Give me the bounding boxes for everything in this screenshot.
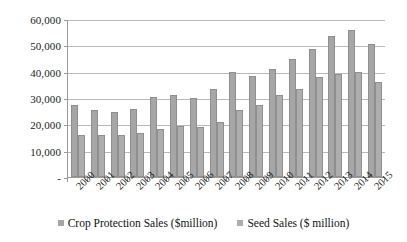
bar [296, 89, 303, 177]
bar-group [68, 20, 88, 177]
y-axis-tick-label: 60,000 [0, 14, 61, 26]
bar [71, 105, 78, 177]
bar [375, 82, 382, 177]
bar [190, 98, 197, 177]
bar [276, 95, 283, 177]
bar [197, 127, 204, 177]
x-axis-tick-label: 2007 [206, 183, 226, 213]
x-axis-tick-label: 2011 [286, 183, 306, 213]
bar [229, 72, 236, 177]
bar [289, 59, 296, 178]
x-axis-tick-label: 2010 [266, 183, 286, 213]
x-axis-tick-label: 2006 [186, 183, 206, 213]
bar-group [345, 20, 365, 177]
chart-legend: Crop Protection Sales ($million)Seed Sal… [0, 217, 407, 229]
bar [348, 30, 355, 177]
plot-area [67, 20, 385, 178]
bar-chart: 60,00050,00040,00030,00020,00010,000- 20… [0, 0, 407, 242]
bar [137, 133, 144, 177]
bar [210, 89, 217, 177]
bar [236, 110, 243, 177]
legend-item[interactable]: Crop Protection Sales ($million) [58, 217, 218, 229]
legend-label: Seed Sales ($ million) [247, 217, 349, 229]
bar-group [266, 20, 286, 177]
bar-group [365, 20, 385, 177]
x-axis-tick-label: 2005 [166, 183, 186, 213]
legend-item[interactable]: Seed Sales ($ million) [237, 217, 349, 229]
legend-label: Crop Protection Sales ($million) [68, 217, 218, 229]
bar [309, 49, 316, 177]
bar [98, 135, 105, 177]
x-axis-tick-label: 2004 [147, 183, 167, 213]
bar-group [326, 20, 346, 177]
x-axis-tick-label: 2013 [325, 183, 345, 213]
bar [170, 95, 177, 177]
x-axis-tick-label: 2009 [246, 183, 266, 213]
x-axis-tick-label: 2014 [345, 183, 365, 213]
bar [118, 135, 125, 177]
bar-group [108, 20, 128, 177]
bar [78, 135, 85, 177]
bar-group [306, 20, 326, 177]
y-axis-tick-label: 40,000 [0, 67, 61, 79]
y-axis-tick-label: 50,000 [0, 40, 61, 52]
bar [111, 112, 118, 177]
bar-group [207, 20, 227, 177]
legend-swatch-icon [237, 220, 243, 226]
bar-group [187, 20, 207, 177]
y-axis-tick-label: 30,000 [0, 93, 61, 105]
bar [335, 74, 342, 177]
bar-group [88, 20, 108, 177]
bar [256, 105, 263, 177]
x-axis-tick-label: 2001 [87, 183, 107, 213]
bar [130, 109, 137, 177]
bar-group [127, 20, 147, 177]
bar [249, 76, 256, 177]
bar-group [167, 20, 187, 177]
x-axis-labels: 2000200120022003200420052006200720082009… [67, 183, 385, 213]
bar [150, 97, 157, 177]
bar [217, 122, 224, 177]
bar [355, 72, 362, 177]
bars-layer [68, 20, 385, 177]
bar-group [246, 20, 266, 177]
x-axis-tick-label: 2000 [67, 183, 87, 213]
bar-group [227, 20, 247, 177]
bar [91, 110, 98, 177]
x-axis-tick-label: 2012 [306, 183, 326, 213]
y-axis-tick-label: 20,000 [0, 119, 61, 131]
bar [269, 69, 276, 177]
bar-group [286, 20, 306, 177]
bar [157, 129, 164, 177]
x-axis-tick-label: 2003 [127, 183, 147, 213]
x-axis-tick-label: 2002 [107, 183, 127, 213]
bar [316, 77, 323, 177]
x-axis-tick-label: 2008 [226, 183, 246, 213]
legend-swatch-icon [58, 220, 64, 226]
bar [177, 126, 184, 177]
bar [328, 36, 335, 177]
y-axis-tick-label: - [0, 172, 61, 184]
bar [368, 44, 375, 177]
y-axis-tick-label: 10,000 [0, 146, 61, 158]
x-axis-tick-label: 2015 [365, 183, 385, 213]
bar-group [147, 20, 167, 177]
